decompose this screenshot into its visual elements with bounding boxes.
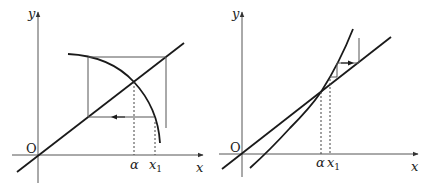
x1-label: x1 (149, 157, 162, 174)
line-y-equals-x (17, 43, 184, 172)
y-axis-label: y (27, 6, 36, 21)
origin-label: O (26, 141, 37, 156)
increasing-curve (250, 29, 353, 168)
x-axis-label: x (411, 159, 419, 174)
x-axis-label: x (196, 160, 204, 175)
origin-label: O (230, 140, 241, 155)
left-diagram: y x O α x1 (12, 6, 204, 183)
diagram-canvas: y x O α x1 y x O α x1 (0, 0, 430, 187)
decreasing-curve (68, 54, 160, 143)
y-axis-label: y (231, 6, 240, 21)
cobweb-path (330, 38, 359, 77)
alpha-label: α (130, 157, 139, 172)
alpha-label: α (316, 155, 325, 170)
line-y-equals-x (222, 37, 391, 169)
right-diagram: y x O α x1 (219, 6, 419, 177)
x1-label: x1 (327, 155, 340, 172)
